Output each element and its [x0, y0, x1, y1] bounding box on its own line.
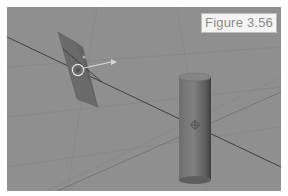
y-axis-line — [57, 92, 281, 191]
figure-label: Figure 3.56 — [201, 13, 277, 33]
light-dot-icon — [82, 55, 85, 58]
x-axis-line — [7, 37, 281, 167]
viewport-scene[interactable] — [7, 7, 281, 191]
plane-object[interactable] — [58, 32, 102, 107]
floor-grid — [7, 7, 281, 191]
3d-viewport[interactable]: Figure 3.56 — [7, 7, 281, 191]
